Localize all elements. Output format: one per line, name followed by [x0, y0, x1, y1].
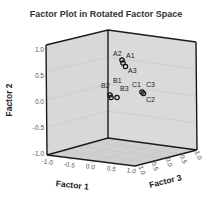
z-tick-0.0: 0.0 [165, 157, 175, 168]
y-axis-label: Factor 2 [4, 83, 14, 116]
y-tick-0.0: 0.0 [35, 98, 44, 105]
x-tick-neg1.0: -1.0 [41, 157, 53, 166]
y-tick-1.0: 1.0 [35, 46, 44, 53]
label-b2: B2 [101, 82, 110, 89]
z-tick-neg0.5: -0.5 [178, 152, 189, 165]
z-tick-neg1.0: -1.0 [193, 148, 204, 161]
label-b3: B3 [120, 85, 129, 92]
y-tick-neg0.5: -0.5 [33, 124, 45, 131]
label-a1: A1 [126, 52, 135, 59]
y-tick-neg1.0: -1.0 [33, 150, 45, 157]
z-axis-label: Factor 3 [148, 172, 183, 190]
label-a3: A3 [128, 67, 137, 74]
label-c2: C2 [146, 96, 155, 103]
x-tick-0.0: 0.0 [85, 162, 95, 170]
x-tick-0.5: 0.5 [106, 164, 116, 172]
x-tick-1.0: 1.0 [126, 166, 136, 174]
z-tick-1.0: 1.0 [138, 165, 148, 176]
factor2-ticks: 1.0 0.5 0.0 -0.5 -1.0 [33, 46, 45, 157]
chart-title: Factor Plot in Rotated Factor Space [30, 9, 183, 19]
label-c3: C3 [146, 81, 155, 88]
z-tick-0.5: 0.5 [151, 161, 161, 172]
x-tick-neg0.5: -0.5 [63, 160, 75, 169]
x-axis-label: Factor 1 [55, 178, 89, 191]
label-c1: C1 [132, 81, 141, 88]
factor-plot-3d: Factor Plot in Rotated Factor Space 1.0 [0, 0, 211, 202]
back-left-wall [46, 30, 108, 155]
y-tick-0.5: 0.5 [35, 72, 44, 79]
label-a2: A2 [113, 50, 122, 57]
label-b1: B1 [113, 77, 122, 84]
